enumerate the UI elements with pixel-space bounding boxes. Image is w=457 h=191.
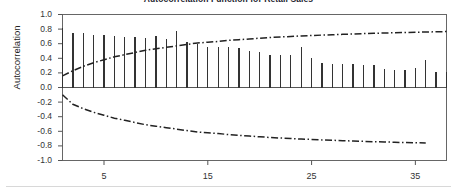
upper-confidence-band — [63, 32, 447, 76]
x-axis-tick-labels: 5152535 — [0, 172, 457, 184]
x-tick-label: 15 — [193, 172, 223, 181]
x-tick-label: 35 — [400, 172, 430, 181]
acf-chart-figure: Autocorrelation Function for Retail Sale… — [0, 0, 457, 191]
x-tick-label: 5 — [89, 172, 119, 181]
x-axis-tick-marks — [104, 161, 415, 166]
x-tick-label: 25 — [297, 172, 327, 181]
lower-confidence-band — [63, 95, 426, 143]
acf-plot-area — [0, 0, 457, 191]
acf-spike-bars — [63, 28, 447, 88]
bottom-divider — [6, 186, 451, 187]
